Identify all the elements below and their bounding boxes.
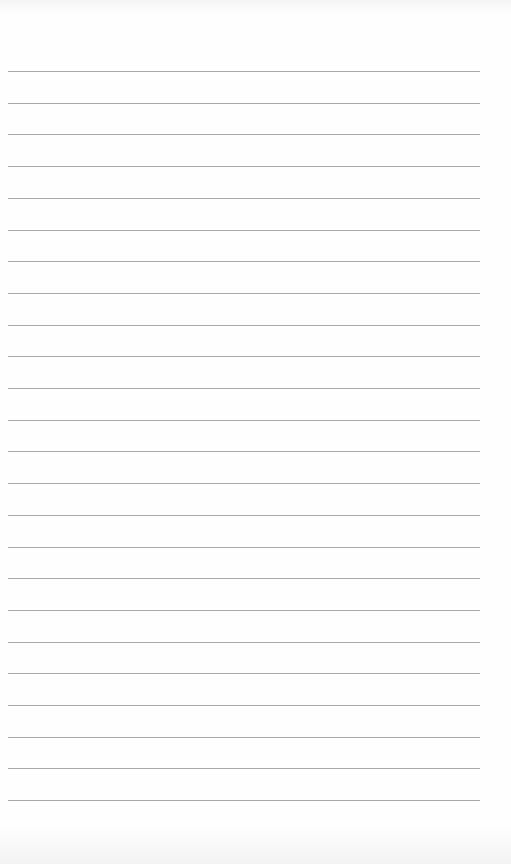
ruled-line: [8, 261, 480, 262]
ruled-line: [8, 610, 480, 611]
ruled-line: [8, 356, 480, 357]
ruled-line: [8, 103, 480, 104]
ruled-line: [8, 673, 480, 674]
lined-paper-sheet: [0, 0, 511, 864]
ruled-line: [8, 483, 480, 484]
ruled-line: [8, 642, 480, 643]
ruled-line: [8, 547, 480, 548]
ruled-line: [8, 515, 480, 516]
ruled-line: [8, 768, 480, 769]
ruled-line: [8, 293, 480, 294]
ruled-line: [8, 166, 480, 167]
ruled-line: [8, 388, 480, 389]
ruled-line: [8, 705, 480, 706]
ruled-line: [8, 71, 480, 72]
top-edge-shading: [0, 0, 511, 14]
ruled-line: [8, 737, 480, 738]
ruled-line: [8, 800, 480, 801]
ruled-line: [8, 325, 480, 326]
ruled-line: [8, 134, 480, 135]
bottom-edge-shading: [0, 824, 511, 864]
ruled-line: [8, 420, 480, 421]
ruled-line: [8, 451, 480, 452]
ruled-line: [8, 230, 480, 231]
ruled-line: [8, 578, 480, 579]
ruled-line: [8, 198, 480, 199]
